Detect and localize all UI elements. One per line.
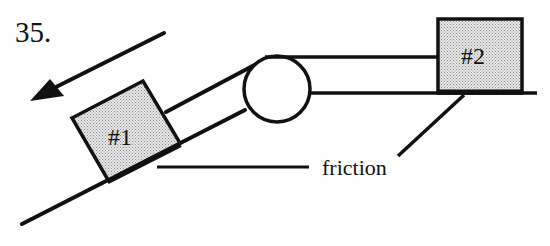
pulley xyxy=(244,56,310,122)
block-1-label: #1 xyxy=(108,124,132,150)
block-2: #2 xyxy=(438,19,522,93)
problem-number: 35. xyxy=(15,16,51,48)
block-2-label: #2 xyxy=(461,43,485,69)
physics-diagram: 35. #1 #2 friction xyxy=(0,0,550,246)
friction-label: friction xyxy=(322,155,387,180)
block-1: #1 xyxy=(72,81,180,180)
friction-leader-block2 xyxy=(398,95,464,156)
